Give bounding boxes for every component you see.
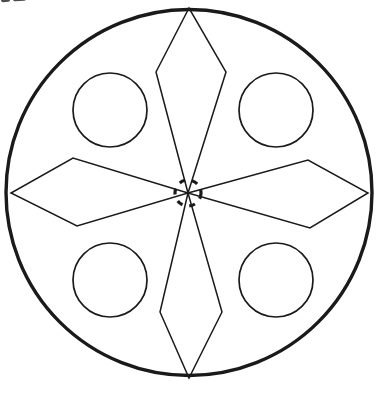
quadrant-circle-bottom-left: [73, 243, 147, 317]
quadrant-circle-top-right: [239, 73, 313, 147]
rosette-figure: [0, 0, 378, 396]
horizontal-petal-right: [188, 160, 368, 228]
vertical-petal-lower: [160, 193, 222, 378]
petal-group: [11, 8, 368, 378]
quadrant-circle-top-left: [73, 73, 147, 147]
quadrant-circle-bottom-right: [239, 243, 313, 317]
horizontal-petal-left: [11, 158, 188, 226]
vertical-petal-upper: [156, 8, 226, 193]
drawing-canvas: [0, 0, 378, 396]
